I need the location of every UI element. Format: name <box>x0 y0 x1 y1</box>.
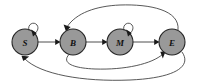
node-b-circle[interactable] <box>60 29 86 55</box>
edge-m-to-e <box>133 39 160 45</box>
edge-e-to-b-path <box>67 5 178 30</box>
edge-s-to-b <box>38 39 61 45</box>
node-b[interactable]: B <box>60 29 86 55</box>
edge-e-to-s-arrowhead <box>22 56 30 61</box>
edge-b-to-e-path <box>67 54 163 69</box>
state-diagram-canvas: S B M E <box>0 0 198 83</box>
state-diagram-figure: S B M E <box>0 0 198 83</box>
node-e-circle[interactable] <box>159 29 185 55</box>
edge-e-to-b <box>64 5 178 32</box>
node-e[interactable]: E <box>159 29 185 55</box>
edge-b-to-m <box>86 39 108 45</box>
